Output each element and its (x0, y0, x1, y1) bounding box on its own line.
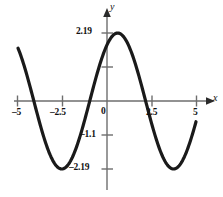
y-tick-label-2.19: 2.19 (76, 27, 92, 37)
y-tick-label--2.19: –2.19 (69, 163, 89, 173)
graph-figure: –5 –2.5 0 2.5 5 2.19 –1.1 –2.19 y x (0, 0, 223, 197)
x-tick-label-2.5: 2.5 (146, 108, 157, 118)
function-curve-layer (0, 0, 223, 197)
x-axis-label: x (213, 93, 217, 103)
y-tick-label--1.1: –1.1 (80, 130, 96, 140)
x-tick-label-0: 0 (101, 107, 106, 117)
y-axis-label: y (110, 2, 114, 12)
x-tick-label--5: –5 (12, 108, 21, 118)
function-curve-main (18, 33, 196, 169)
x-tick-label--2.5: –2.5 (50, 108, 66, 118)
x-tick-label-5: 5 (193, 108, 198, 118)
